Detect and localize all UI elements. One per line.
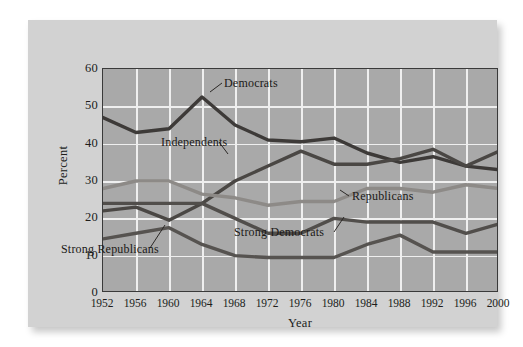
gridline-vertical bbox=[169, 69, 171, 291]
y-tick-label: 20 bbox=[68, 211, 98, 224]
figure-card: 0102030405060 Percent 195219561960196419… bbox=[28, 20, 497, 327]
gridline-vertical bbox=[334, 69, 336, 291]
y-tick-label: 60 bbox=[68, 62, 98, 75]
gridline-vertical bbox=[268, 69, 270, 291]
plot-area bbox=[102, 68, 498, 292]
x-tick-label: 1956 bbox=[124, 298, 147, 310]
gridline-horizontal bbox=[103, 256, 497, 258]
series-label-democrats: Democrats bbox=[224, 77, 278, 89]
x-tick-label: 1992 bbox=[421, 298, 444, 310]
series-label-republicans: Republicans bbox=[352, 190, 414, 202]
series-label-strong-republicans: Strong Republicans bbox=[61, 243, 159, 255]
x-tick-label: 1972 bbox=[256, 298, 279, 310]
gridline-vertical bbox=[400, 69, 402, 291]
gridline-vertical bbox=[136, 69, 138, 291]
series-label-independents: Independents bbox=[161, 136, 227, 148]
x-tick-label: 1960 bbox=[157, 298, 180, 310]
x-axis-ticks: 1952195619601964196819721976198019841988… bbox=[102, 298, 498, 314]
x-tick-label: 2000 bbox=[487, 298, 510, 310]
gridline-horizontal bbox=[103, 106, 497, 108]
x-tick-label: 1968 bbox=[223, 298, 246, 310]
gridline-horizontal bbox=[103, 181, 497, 183]
x-tick-label: 1964 bbox=[190, 298, 213, 310]
gridline-horizontal bbox=[103, 218, 497, 220]
gridline-vertical bbox=[367, 69, 369, 291]
x-tick-label: 1976 bbox=[289, 298, 312, 310]
x-tick-label: 1952 bbox=[91, 298, 114, 310]
gridline-vertical bbox=[466, 69, 468, 291]
gridline-vertical bbox=[202, 69, 204, 291]
x-axis-title: Year bbox=[102, 316, 498, 331]
x-tick-label: 1996 bbox=[454, 298, 477, 310]
x-tick-label: 1988 bbox=[388, 298, 411, 310]
y-axis-ticks: 0102030405060 bbox=[66, 68, 98, 292]
y-tick-label: 40 bbox=[68, 136, 98, 149]
y-tick-label: 30 bbox=[68, 174, 98, 187]
series-label-strong-democrats: Strong Democrats bbox=[234, 226, 324, 238]
gridline-vertical bbox=[433, 69, 435, 291]
y-tick-label: 50 bbox=[68, 99, 98, 112]
x-tick-label: 1980 bbox=[322, 298, 345, 310]
x-tick-label: 1984 bbox=[355, 298, 378, 310]
y-axis-title: Percent bbox=[56, 121, 71, 211]
gridline-vertical bbox=[301, 69, 303, 291]
gridline-vertical bbox=[235, 69, 237, 291]
